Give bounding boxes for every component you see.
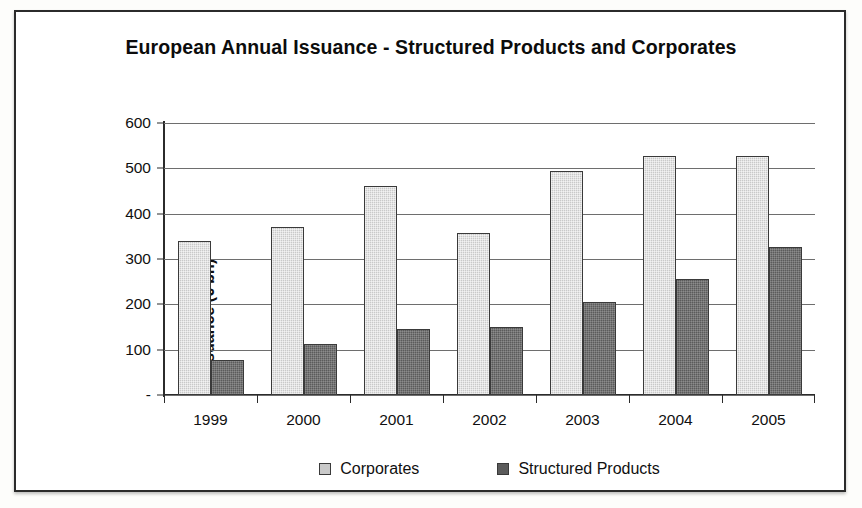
bar-corporates[interactable] [736, 156, 769, 395]
bar-structured[interactable] [211, 360, 244, 395]
x-tick-mark [814, 395, 815, 403]
bar-corporates[interactable] [457, 233, 490, 395]
y-tick-label: 100 [125, 341, 151, 359]
bar-structured[interactable] [397, 329, 430, 395]
y-tick-mark [157, 123, 164, 124]
bar-structured[interactable] [676, 279, 709, 396]
bar-group: 1999 [164, 123, 257, 395]
bar-structured[interactable] [304, 344, 337, 395]
bar-group: 2000 [257, 123, 350, 395]
bar-group: 2004 [629, 123, 722, 395]
y-tick-mark [157, 395, 164, 396]
legend-swatch-icon [497, 463, 509, 475]
bar-group: 2005 [722, 123, 815, 395]
x-tick-mark [257, 395, 258, 403]
bar-corporates[interactable] [643, 156, 676, 395]
chart-page: European Annual Issuance - Structured Pr… [0, 0, 862, 508]
bar-structured[interactable] [490, 327, 523, 395]
bar-corporates[interactable] [178, 241, 211, 395]
y-tick-mark [157, 304, 164, 305]
y-tick-mark [157, 259, 164, 260]
bar-groups: 1999200020012002200320042005 [164, 123, 815, 395]
y-tick-label: 500 [125, 159, 151, 177]
x-tick-mark [536, 395, 537, 403]
x-tick-label: 2001 [350, 411, 443, 429]
x-tick-mark [629, 395, 630, 403]
legend-label: Corporates [340, 460, 419, 478]
gridline [164, 395, 815, 396]
bar-group: 2002 [443, 123, 536, 395]
bar-corporates[interactable] [550, 171, 583, 395]
y-tick-mark [157, 213, 164, 214]
bar-corporates[interactable] [271, 227, 304, 395]
x-tick-mark [722, 395, 723, 403]
legend-item[interactable]: Structured Products [497, 460, 659, 478]
bar-corporates[interactable] [364, 186, 397, 395]
y-tick-label: 400 [125, 205, 151, 223]
chart-frame: European Annual Issuance - Structured Pr… [14, 10, 846, 492]
x-tick-mark [350, 395, 351, 403]
bar-group: 2001 [350, 123, 443, 395]
bar-structured[interactable] [769, 247, 802, 395]
x-tick-label: 1999 [164, 411, 257, 429]
x-tick-label: 2002 [443, 411, 536, 429]
x-tick-label: 2004 [629, 411, 722, 429]
x-tick-label: 2000 [257, 411, 350, 429]
y-tick-label: 300 [125, 250, 151, 268]
y-tick-mark [157, 168, 164, 169]
chart-legend: CorporatesStructured Products [164, 460, 815, 478]
x-tick-mark [164, 395, 165, 403]
legend-label: Structured Products [518, 460, 659, 478]
bar-structured[interactable] [583, 302, 616, 395]
x-tick-label: 2003 [536, 411, 629, 429]
y-tick-label: - [146, 386, 151, 404]
x-tick-label: 2005 [722, 411, 815, 429]
x-tick-mark [443, 395, 444, 403]
y-tick-mark [157, 349, 164, 350]
legend-swatch-icon [319, 463, 331, 475]
y-tick-label: 200 [125, 295, 151, 313]
y-tick-label: 600 [125, 114, 151, 132]
plot-area: Issuance (€ bn) -100200300400500600 1999… [164, 123, 815, 395]
bar-group: 2003 [536, 123, 629, 395]
plot-wrapper: Issuance (€ bn) -100200300400500600 1999… [16, 12, 862, 508]
legend-item[interactable]: Corporates [319, 460, 419, 478]
